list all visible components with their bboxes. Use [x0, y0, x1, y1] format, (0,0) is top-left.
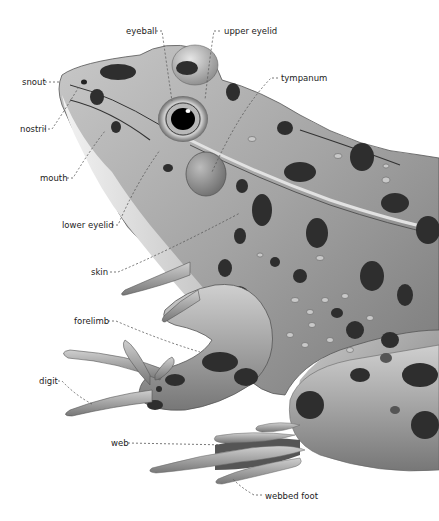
label-upper-eyelid: upper eyelid — [224, 26, 277, 36]
label-webbed-foot: webbed foot — [265, 491, 318, 501]
eye — [158, 96, 208, 142]
label-tympanum: tympanum — [281, 73, 327, 83]
label-lower-eyelid: lower eyelid — [62, 220, 114, 230]
label-snout: snout — [22, 77, 46, 87]
label-nostril: nostril — [20, 124, 47, 134]
label-mouth: mouth — [40, 173, 68, 183]
label-forelimb: forelimb — [74, 316, 109, 326]
label-web: web — [111, 438, 129, 448]
webbed-foot — [150, 423, 305, 484]
frog-illustration — [0, 0, 439, 521]
tympanum-shape — [186, 152, 226, 196]
label-digit: digit — [39, 376, 58, 386]
label-eyeball: eyeball — [126, 26, 157, 36]
label-skin: skin — [91, 267, 108, 277]
nostril-shape — [81, 80, 87, 85]
